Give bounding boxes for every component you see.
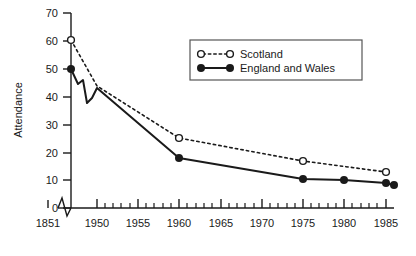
x-axis-major-ticks bbox=[48, 199, 386, 208]
legend-scotland-marker-left bbox=[198, 51, 205, 58]
y-axis-title: Attendance bbox=[12, 82, 24, 138]
y-tick-label-20: 20 bbox=[46, 147, 58, 159]
legend-label-scotland: Scotland bbox=[240, 48, 283, 60]
y-tick-label-30: 30 bbox=[46, 119, 58, 131]
england-point-1989 bbox=[390, 181, 398, 189]
legend-box bbox=[190, 40, 362, 80]
legend-label-england-and-wales: England and Wales bbox=[240, 62, 335, 74]
chart-legend: Scotland England and Wales bbox=[190, 40, 362, 80]
scotland-point-1975 bbox=[300, 158, 307, 165]
x-tick-label-1985: 1985 bbox=[374, 217, 398, 229]
legend-scotland-marker-right bbox=[227, 51, 234, 58]
england-point-1985 bbox=[382, 179, 390, 187]
y-tick-label-10: 10 bbox=[46, 174, 58, 186]
x-tick-label-1975: 1975 bbox=[291, 217, 315, 229]
england-point-1851 bbox=[67, 65, 75, 73]
x-tick-label-1970: 1970 bbox=[250, 217, 274, 229]
series-england-and-wales bbox=[67, 65, 398, 189]
x-tick-label-1960: 1960 bbox=[167, 217, 191, 229]
y-tick-label-50: 50 bbox=[46, 63, 58, 75]
y-tick-label-70: 70 bbox=[46, 7, 58, 19]
england-point-1979 bbox=[340, 176, 348, 184]
legend-england-marker-left bbox=[197, 64, 205, 72]
england-and-wales-line bbox=[71, 69, 394, 185]
x-tick-label-1980: 1980 bbox=[332, 217, 356, 229]
england-point-1975 bbox=[299, 175, 307, 183]
england-point-1960 bbox=[175, 154, 183, 162]
x-axis-break-zigzag bbox=[58, 198, 78, 216]
chart-container: 70 60 50 40 30 20 10 0 Attendance bbox=[0, 0, 416, 256]
scotland-point-1851 bbox=[68, 37, 75, 44]
x-tick-label-1955: 1955 bbox=[126, 217, 150, 229]
y-tick-label-60: 60 bbox=[46, 35, 58, 47]
x-tick-label-1965: 1965 bbox=[209, 217, 233, 229]
x-axis-minor-ticks bbox=[105, 203, 377, 208]
scotland-point-1960 bbox=[176, 135, 183, 142]
y-tick-label-40: 40 bbox=[46, 91, 58, 103]
attendance-line-chart: 70 60 50 40 30 20 10 0 Attendance bbox=[0, 0, 416, 256]
y-tick-label-0: 0 bbox=[52, 202, 58, 214]
x-tick-label-1950: 1950 bbox=[85, 217, 109, 229]
scotland-point-1985 bbox=[383, 169, 390, 176]
x-tick-label-1851: 1851 bbox=[36, 217, 60, 229]
legend-england-marker-right bbox=[226, 64, 234, 72]
